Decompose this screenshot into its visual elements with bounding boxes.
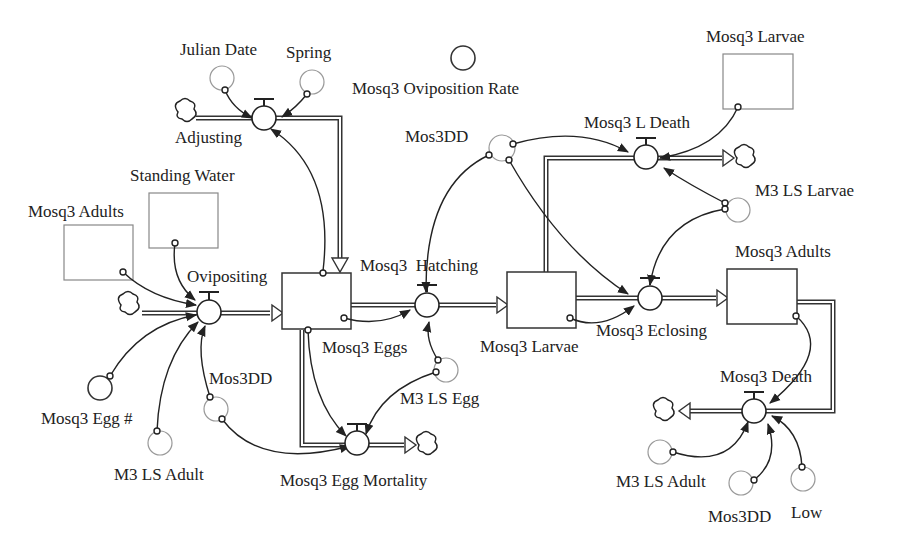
valve-l-death[interactable] <box>634 138 658 169</box>
converter-mos3dd-right[interactable] <box>729 471 753 495</box>
label-spring: Spring <box>286 43 332 62</box>
valve-egg-mortality[interactable] <box>345 424 369 455</box>
ghost-stock-standing-water[interactable] <box>149 193 218 248</box>
label-egg-mortality: Mosq3 Egg Mortality <box>280 471 428 490</box>
label-ghost-standing-water: Standing Water <box>130 166 235 185</box>
ghost-stock-mosq3-larvae[interactable] <box>723 54 793 109</box>
converter-julian-date[interactable] <box>210 66 234 90</box>
label-mos3dd-right: Mos3DD <box>708 507 771 526</box>
converter-oviposition-rate[interactable] <box>451 46 475 70</box>
stock-mosq3-larvae[interactable] <box>507 272 576 328</box>
converter-mosq3-egg-number[interactable] <box>88 376 112 400</box>
valve-adjusting[interactable] <box>252 99 276 130</box>
stock-mosq3-eggs[interactable] <box>282 273 351 329</box>
converter-m3-ls-larvae[interactable] <box>726 198 750 222</box>
label-hatching: Mosq3 Hatching <box>360 256 479 275</box>
cloud-source-adjusting <box>175 99 196 122</box>
valve-death[interactable] <box>742 392 766 423</box>
label-adjusting: Adjusting <box>175 128 243 147</box>
label-m3-ls-larvae: M3 LS Larvae <box>755 181 854 200</box>
label-mosq3-eggs: Mosq3 Eggs <box>322 338 407 357</box>
valve-eclosing[interactable] <box>638 278 662 310</box>
cloud-sink-l-death <box>734 145 755 168</box>
converter-m3-ls-adult-right[interactable] <box>648 440 672 464</box>
label-mosq3-larvae: Mosq3 Larvae <box>480 337 579 356</box>
label-m3-ls-adult-left: M3 LS Adult <box>114 465 204 484</box>
converter-m3-ls-adult-left[interactable] <box>148 431 172 455</box>
label-death: Mosq3 Death <box>720 367 813 386</box>
label-mos3dd-left: Mos3DD <box>209 369 272 388</box>
label-ghost-mosq3-larvae: Mosq3 Larvae <box>706 27 805 46</box>
label-m3-ls-egg: M3 LS Egg <box>400 389 480 408</box>
label-ovipositing: Ovipositing <box>187 267 268 286</box>
converter-spring[interactable] <box>300 70 324 94</box>
label-eclosing: Mosq3 Eclosing <box>596 321 707 340</box>
cloud-sink-egg-mortality <box>416 432 437 455</box>
cloud-sink-death <box>653 398 674 421</box>
label-mosq3-egg-number: Mosq3 Egg # <box>41 409 133 428</box>
label-oviposition-rate: Mosq3 Oviposition Rate <box>352 79 519 98</box>
stock-mosq3-adults[interactable] <box>727 269 797 324</box>
label-julian-date: Julian Date <box>180 40 257 59</box>
valve-hatching[interactable] <box>415 285 439 317</box>
label-m3-ls-adult-right: M3 LS Adult <box>616 472 706 491</box>
converter-low[interactable] <box>791 467 815 491</box>
label-mosq3-adults: Mosq3 Adults <box>735 242 831 261</box>
valve-ovipositing[interactable] <box>197 292 221 324</box>
label-ghost-mosq3-adults: Mosq3 Adults <box>28 202 124 221</box>
label-mos3dd-top: Mos3DD <box>405 127 468 146</box>
label-l-death: Mosq3 L Death <box>584 113 691 132</box>
stock-flow-diagram: Julian Date Spring Mosq3 Oviposition Rat… <box>0 0 906 551</box>
label-low: Low <box>791 503 823 522</box>
cloud-source-ovipositing <box>118 292 139 315</box>
